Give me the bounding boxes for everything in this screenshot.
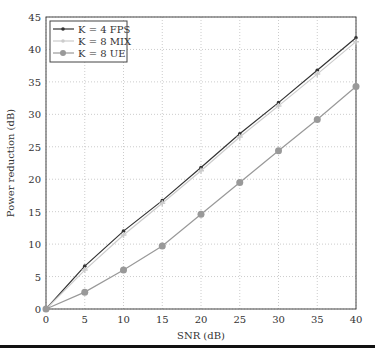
- line-chart: 0510152025303540051015202530354045SNR (d…: [0, 0, 375, 355]
- data-point: [198, 211, 205, 218]
- data-point: [43, 306, 50, 313]
- x-tick-label: 5: [82, 314, 88, 325]
- y-tick-label: 15: [28, 207, 41, 218]
- legend-label: K = 8 MIX: [78, 36, 132, 47]
- data-point: [81, 289, 88, 296]
- x-tick-label: 40: [350, 314, 363, 325]
- y-tick-label: 25: [28, 142, 41, 153]
- x-axis-label: SNR (dB): [177, 330, 225, 341]
- legend-label: K = 4 FPS: [78, 24, 130, 35]
- bottom-rule: [0, 345, 375, 348]
- x-tick-label: 0: [43, 314, 49, 325]
- data-point: [314, 116, 321, 123]
- data-point: [353, 83, 360, 90]
- y-tick-label: 20: [28, 174, 41, 185]
- x-tick-label: 35: [311, 314, 324, 325]
- y-tick-label: 5: [35, 272, 41, 283]
- x-tick-label: 15: [156, 314, 169, 325]
- legend-label: K = 8 UE: [78, 48, 125, 59]
- x-tick-label: 30: [272, 314, 285, 325]
- x-tick-label: 10: [117, 314, 130, 325]
- y-tick-label: 10: [28, 239, 41, 250]
- data-point: [120, 267, 127, 274]
- y-tick-label: 45: [28, 12, 41, 23]
- series-line: [46, 42, 356, 309]
- x-tick-label: 25: [233, 314, 246, 325]
- y-tick-label: 40: [28, 44, 41, 55]
- data-point: [275, 147, 282, 154]
- x-tick-label: 20: [195, 314, 208, 325]
- y-tick-label: 30: [28, 109, 41, 120]
- y-tick-label: 0: [35, 304, 41, 315]
- data-point: [159, 243, 166, 250]
- y-axis-label: Power reduction (dB): [5, 109, 16, 217]
- y-tick-label: 35: [28, 77, 41, 88]
- data-point: [236, 179, 243, 186]
